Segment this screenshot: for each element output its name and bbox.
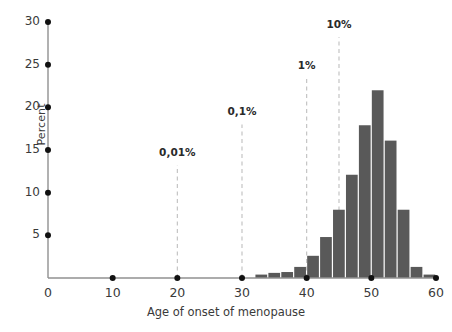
x-tick-label: 0	[28, 285, 68, 300]
y-tick-dot	[45, 232, 51, 238]
histogram-bar	[359, 125, 371, 278]
chart-canvas	[0, 0, 452, 332]
histogram-bar	[320, 237, 332, 278]
y-tick-label: 25	[12, 57, 40, 71]
histogram-bar	[385, 141, 397, 278]
histogram-bar	[281, 272, 293, 278]
y-tick-label: 5	[12, 227, 40, 241]
histogram-chart: Percent Age of onset of menopause 510152…	[0, 0, 452, 332]
x-tick-label: 60	[416, 285, 452, 300]
histogram-bars	[255, 90, 435, 278]
y-tick-dot	[45, 19, 51, 25]
x-tick-dot	[239, 275, 245, 281]
x-tick-label: 20	[157, 285, 197, 300]
y-tick-label: 30	[12, 14, 40, 28]
y-tick-label: 10	[12, 185, 40, 199]
x-tick-dot	[433, 275, 439, 281]
histogram-bar	[346, 175, 358, 278]
histogram-bar	[333, 210, 345, 278]
annotation-label: 0,01%	[132, 146, 222, 158]
x-tick-label: 50	[351, 285, 391, 300]
y-tick-dot	[45, 62, 51, 68]
x-tick-dot	[368, 275, 374, 281]
histogram-bar	[307, 256, 319, 278]
histogram-bar	[372, 90, 384, 278]
x-tick-label: 40	[287, 285, 327, 300]
annotation-label: 0,1%	[197, 105, 287, 117]
histogram-bar	[411, 267, 423, 278]
x-tick-label: 30	[222, 285, 262, 300]
x-axis-title: Age of onset of menopause	[0, 305, 452, 319]
x-tick-dot	[174, 275, 180, 281]
y-tick-label: 15	[12, 142, 40, 156]
x-tick-dot	[110, 275, 116, 281]
y-axis-title: Percent	[35, 80, 48, 170]
annotation-label: 10%	[294, 18, 384, 30]
annotation-label: 1%	[262, 59, 352, 71]
histogram-bar	[398, 210, 410, 278]
x-tick-label: 10	[93, 285, 133, 300]
x-tick-dot	[304, 275, 310, 281]
y-tick-dot	[45, 190, 51, 196]
histogram-bar	[268, 273, 280, 278]
y-tick-label: 20	[12, 99, 40, 113]
